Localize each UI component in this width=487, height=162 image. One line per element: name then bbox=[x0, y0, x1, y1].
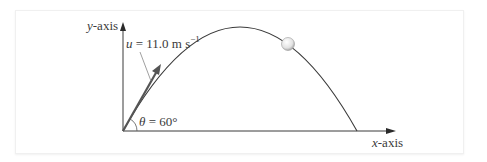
velocity-label: u = 11.0 m s−1 bbox=[126, 34, 200, 51]
x-axis-label: x-axis bbox=[371, 135, 403, 150]
projectile-diagram: y-axis x-axis u = 11.0 m s−1 θ = 60° bbox=[0, 0, 487, 162]
angle-label: θ = 60° bbox=[139, 114, 177, 129]
y-axis-label: y-axis bbox=[85, 18, 118, 33]
projectile-ball bbox=[282, 38, 295, 51]
velocity-arrow-icon bbox=[152, 64, 161, 75]
x-axis-arrow-icon bbox=[386, 128, 396, 134]
y-axis-arrow-icon bbox=[120, 22, 126, 31]
angle-arc bbox=[130, 119, 137, 131]
velocity-leader-line bbox=[140, 52, 151, 81]
